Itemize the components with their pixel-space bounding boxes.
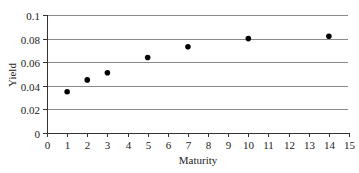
data-point-marker <box>84 77 90 83</box>
x-tick-label: 12 <box>284 139 295 151</box>
x-axis-tick-labels: 0123456789101112131415 <box>45 139 356 151</box>
x-tick-label: 2 <box>85 139 91 151</box>
yield-maturity-scatter-chart: 00.020.040.060.080.1 0123456789101112131… <box>0 0 359 173</box>
data-point-marker <box>145 55 151 61</box>
y-tick-label: 0 <box>35 128 41 140</box>
x-tick-label: 3 <box>105 139 111 151</box>
y-tick-label: 0.06 <box>21 57 41 69</box>
horizontal-gridlines <box>47 16 348 110</box>
y-axis-tick-labels: 00.020.040.060.080.1 <box>21 10 41 140</box>
data-point-marker <box>246 36 252 42</box>
x-tick-label: 10 <box>243 139 255 151</box>
x-tick-label: 8 <box>206 139 212 151</box>
x-axis-title: Maturity <box>179 154 218 166</box>
x-tick-label: 1 <box>65 139 71 151</box>
data-points <box>64 33 331 94</box>
x-tick-label: 0 <box>45 139 51 151</box>
x-tick-label: 9 <box>226 139 232 151</box>
axes <box>43 15 350 137</box>
x-tick-label: 13 <box>304 139 316 151</box>
x-tick-label: 11 <box>263 139 274 151</box>
x-tick-label: 6 <box>166 139 172 151</box>
y-tick-label: 0.1 <box>26 10 40 22</box>
y-tick-label: 0.08 <box>21 34 41 46</box>
x-tick-label: 5 <box>146 139 152 151</box>
x-tick-label: 15 <box>344 139 356 151</box>
x-tick-label: 14 <box>324 139 336 151</box>
x-tick-label: 7 <box>186 139 192 151</box>
y-axis-title: Yield <box>6 63 18 87</box>
x-tick-label: 4 <box>126 139 132 151</box>
y-tick-label: 0.04 <box>21 81 41 93</box>
data-point-marker <box>326 33 332 39</box>
data-point-marker <box>185 44 191 50</box>
y-tick-label: 0.02 <box>21 104 40 116</box>
data-point-marker <box>105 70 111 76</box>
data-point-marker <box>64 89 70 95</box>
